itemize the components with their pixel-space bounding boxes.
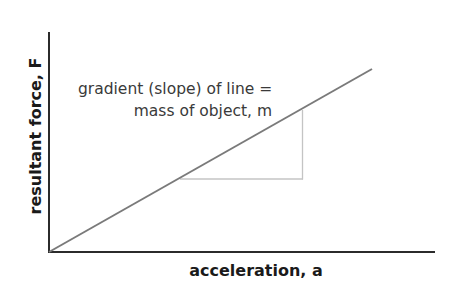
gradient-annotation: gradient (slope) of line = mass of objec…: [78, 78, 272, 122]
annotation-line-2: mass of object, m: [78, 100, 272, 122]
y-axis-label: resultant force, F: [26, 65, 45, 215]
graph-canvas: [0, 0, 464, 293]
annotation-line-1: gradient (slope) of line =: [78, 78, 272, 100]
x-axis-label: acceleration, a: [181, 261, 331, 280]
